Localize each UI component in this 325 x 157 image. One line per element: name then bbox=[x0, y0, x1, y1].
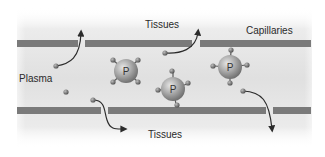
wall-segment bbox=[17, 40, 78, 47]
small-molecule bbox=[53, 63, 58, 68]
small-molecule bbox=[240, 88, 245, 93]
wall-segment bbox=[273, 107, 311, 114]
protein-label: P bbox=[170, 84, 177, 95]
label-capillaries: Capillaries bbox=[246, 26, 293, 36]
protein-label: P bbox=[123, 66, 130, 77]
label-tissues-top: Tissues bbox=[145, 20, 179, 30]
label-plasma: Plasma bbox=[19, 74, 52, 84]
capillary-wall-top bbox=[17, 40, 311, 47]
protein-label: P bbox=[227, 62, 234, 73]
small-molecule bbox=[90, 97, 95, 102]
free-molecule bbox=[63, 89, 68, 94]
wall-segment bbox=[200, 40, 311, 47]
diagram-stage: P P P Tissues Capillaries Plasma Tissues bbox=[0, 0, 325, 157]
small-molecule bbox=[162, 50, 167, 55]
wall-segment bbox=[85, 40, 192, 47]
wall-segment bbox=[17, 107, 101, 114]
label-tissues-bottom: Tissues bbox=[148, 130, 182, 140]
wall-segment bbox=[108, 107, 266, 114]
